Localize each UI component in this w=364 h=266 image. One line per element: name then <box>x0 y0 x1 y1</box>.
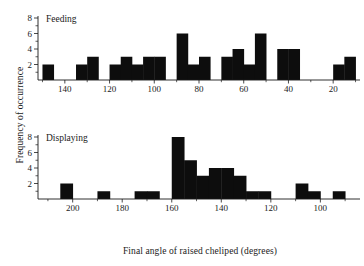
x-tick-label: 80 <box>195 84 205 94</box>
bar <box>132 65 144 81</box>
bar <box>333 65 345 81</box>
bar <box>246 191 259 199</box>
bar <box>255 34 267 81</box>
bar <box>147 191 160 199</box>
plot-area-feeding: 246814012010080604020 <box>38 16 360 94</box>
plot-area-displaying: 2468200180160140120100 <box>38 135 360 213</box>
bar <box>258 191 271 199</box>
x-tick-label: 40 <box>284 84 294 94</box>
bar <box>188 65 200 81</box>
x-tick-label: 100 <box>148 84 162 94</box>
bar <box>184 160 197 199</box>
bar <box>110 65 122 81</box>
bar <box>172 137 185 199</box>
bar <box>277 49 289 80</box>
x-tick-label: 60 <box>239 84 249 94</box>
bar <box>87 57 99 80</box>
bar <box>199 57 211 80</box>
y-tick-label: 2 <box>28 179 33 189</box>
x-tick-label: 140 <box>215 203 229 213</box>
panel-feeding: Feeding 246814012010080604020 <box>38 16 360 94</box>
y-tick-label: 4 <box>28 163 33 173</box>
y-axis-label: Frequency of occurrence <box>15 40 25 190</box>
y-tick-label: 8 <box>28 132 33 142</box>
bar <box>221 57 233 80</box>
bar <box>60 184 73 200</box>
bar <box>121 57 133 80</box>
bar <box>308 191 321 199</box>
x-axis-label: Final angle of raised cheliped (degrees) <box>40 246 360 256</box>
y-tick-label: 8 <box>28 13 33 23</box>
bar <box>42 65 54 81</box>
bar <box>143 57 155 80</box>
panel-displaying: Displaying 2468200180160140120100 <box>38 135 360 213</box>
x-tick-label: 180 <box>115 203 129 213</box>
x-tick-label: 120 <box>264 203 278 213</box>
bar <box>288 49 300 80</box>
chart-svg-feeding: 246814012010080604020 <box>38 16 360 94</box>
bar <box>221 168 234 199</box>
bar <box>97 191 110 199</box>
bar-group <box>60 137 345 199</box>
bar <box>154 57 166 80</box>
x-tick-label: 120 <box>103 84 117 94</box>
bar <box>197 176 210 199</box>
bar <box>296 184 309 200</box>
y-tick-label: 4 <box>28 44 33 54</box>
chart-svg-displaying: 2468200180160140120100 <box>38 135 360 213</box>
y-tick-label: 6 <box>28 148 33 158</box>
bar <box>344 57 356 80</box>
bar <box>209 168 222 199</box>
bar <box>76 65 88 81</box>
bar-group <box>42 34 355 81</box>
histogram-figure: Frequency of occurrence Feeding 24681401… <box>0 0 364 266</box>
bar <box>333 191 346 199</box>
bar <box>177 34 189 81</box>
bar <box>233 49 245 80</box>
bar <box>234 176 247 199</box>
bar <box>135 191 148 199</box>
x-tick-label: 100 <box>314 203 328 213</box>
x-tick-label: 200 <box>66 203 80 213</box>
y-tick-label: 6 <box>28 29 33 39</box>
x-tick-label: 20 <box>329 84 339 94</box>
x-tick-label: 140 <box>58 84 72 94</box>
y-tick-label: 2 <box>28 60 33 70</box>
bar <box>244 65 256 81</box>
x-tick-label: 160 <box>165 203 179 213</box>
